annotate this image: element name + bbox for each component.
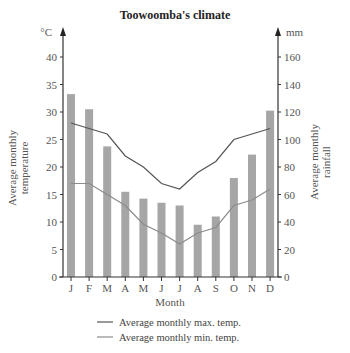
right-tick-label: 40 xyxy=(284,216,296,228)
right-tick-label: 100 xyxy=(284,134,301,146)
right-unit: mm xyxy=(286,26,304,38)
rainfall-bar xyxy=(67,94,75,277)
right-axis-label: Average monthly rainfall xyxy=(308,124,332,200)
right-axis: mm 020406080100120140160 xyxy=(275,26,304,283)
left-tick-label: 10 xyxy=(46,216,58,228)
month-label: O xyxy=(230,282,238,294)
month-label: F xyxy=(86,282,92,294)
rainfall-bars xyxy=(67,94,274,277)
legend-max-label: Average monthly max. temp. xyxy=(119,317,241,328)
left-tick-label: 15 xyxy=(46,189,58,201)
rainfall-bar xyxy=(248,155,256,277)
arrow-up-icon xyxy=(275,27,281,36)
left-tick-label: 25 xyxy=(46,134,58,146)
svg-text:temperature: temperature xyxy=(18,142,30,195)
month-label: J xyxy=(69,282,74,294)
climate-chart: Toowoomba's climate °C 0510152025303540 … xyxy=(0,0,350,353)
x-axis-label: Month xyxy=(155,296,185,308)
rainfall-bar xyxy=(85,109,93,277)
right-tick-label: 120 xyxy=(284,106,301,118)
svg-text:rainfall: rainfall xyxy=(320,146,332,178)
left-tick-label: 30 xyxy=(46,106,58,118)
left-tick-label: 5 xyxy=(52,244,58,256)
rainfall-bar xyxy=(266,111,274,277)
right-tick-label: 60 xyxy=(284,189,296,201)
max-temp-line xyxy=(71,123,270,189)
legend: Average monthly max. temp. Average month… xyxy=(97,317,241,343)
month-label: N xyxy=(248,282,256,294)
left-axis-label: Average monthly temperature xyxy=(6,130,30,206)
right-tick-label: 0 xyxy=(284,271,290,283)
month-label: J xyxy=(177,282,182,294)
left-axis: °C 0510152025303540 xyxy=(40,26,66,283)
rainfall-bar xyxy=(158,203,166,277)
right-tick-label: 20 xyxy=(284,244,296,256)
month-label: J xyxy=(159,282,164,294)
svg-text:Average monthly: Average monthly xyxy=(6,130,18,206)
month-ticks: JFMAMJJASOND xyxy=(69,277,274,294)
right-tick-label: 140 xyxy=(284,79,301,91)
right-tick-label: 160 xyxy=(284,51,301,63)
rainfall-bar xyxy=(176,206,184,278)
svg-text:Average monthly: Average monthly xyxy=(308,124,320,200)
min-temp-line xyxy=(71,184,270,245)
temperature-lines xyxy=(71,123,270,244)
rainfall-bar xyxy=(230,178,238,277)
rainfall-bar xyxy=(103,146,111,277)
rainfall-bar xyxy=(121,192,129,277)
legend-min-label: Average monthly min. temp. xyxy=(119,332,239,343)
left-tick-label: 35 xyxy=(46,79,58,91)
month-label: M xyxy=(102,282,112,294)
month-label: S xyxy=(213,282,219,294)
rainfall-bar xyxy=(139,199,147,277)
month-label: D xyxy=(266,282,274,294)
left-tick-label: 40 xyxy=(46,51,58,63)
chart-title: Toowoomba's climate xyxy=(120,8,231,22)
left-unit: °C xyxy=(40,26,52,38)
right-tick-label: 80 xyxy=(284,161,296,173)
month-label: A xyxy=(121,282,129,294)
left-tick-label: 0 xyxy=(52,271,58,283)
rainfall-bar xyxy=(212,217,220,278)
month-label: A xyxy=(194,282,202,294)
arrow-up-icon xyxy=(60,27,66,36)
left-tick-label: 20 xyxy=(46,161,58,173)
month-label: M xyxy=(139,282,149,294)
